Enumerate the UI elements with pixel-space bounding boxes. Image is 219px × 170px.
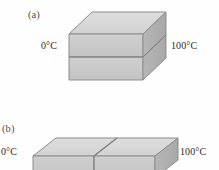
panel-a-box [69,12,166,80]
panel-a-tag: (a) [28,9,40,20]
figure-illustration [0,0,219,170]
panel-a-front-upper-layer [69,34,143,57]
panel-a-right-temperature-label: 100°C [171,40,197,51]
figure-container: (a) 0°C 100°C (b) 0°C 100°C [0,0,219,170]
panel-b-left-temperature-label: 0°C [1,146,17,157]
panel-a-left-temperature-label: 0°C [41,40,57,51]
panel-b-right-temperature-label: 100°C [180,146,206,157]
panel-b-front-face-right-half [94,156,155,170]
panel-b-tag: (b) [2,123,15,134]
panel-b-front-face-left-half [33,156,94,170]
panel-a-front-lower-layer [69,57,143,80]
panel-b-box [33,138,178,170]
